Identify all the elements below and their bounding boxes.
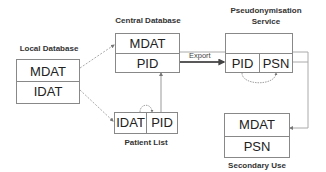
pseudo-service-box: PID PSN <box>225 33 293 73</box>
pseudo-service-title-1: Pseudonymisation <box>220 6 312 15</box>
local-db-idat: IDAT <box>17 81 79 99</box>
local-db-mdat: MDAT <box>17 64 79 79</box>
central-db-mdat: MDAT <box>116 36 179 51</box>
patient-list-title: Patient List <box>106 138 186 147</box>
patientlist-mapping-edge <box>140 105 152 112</box>
central-db-box: MDAT PID <box>115 33 180 73</box>
pid-psn-mapping-edge <box>242 73 276 83</box>
patient-list-pid: PID <box>146 113 177 133</box>
local-to-patientlist-edge <box>80 90 113 121</box>
secondary-use-box: MDAT PSN <box>224 113 290 158</box>
secondary-use-title: Secondary Use <box>217 161 297 170</box>
central-db-pid: PID <box>116 53 179 71</box>
local-db-box: MDAT IDAT <box>16 59 80 104</box>
patient-list-idat: IDAT <box>115 115 146 130</box>
secondary-use-psn: PSN <box>225 136 289 154</box>
pseudo-service-row: PID PSN <box>226 53 292 74</box>
local-to-central-edge <box>80 45 114 68</box>
pseudo-service-psn: PSN <box>259 54 292 73</box>
pseudo-service-pid: PID <box>226 56 259 71</box>
secondary-use-mdat: MDAT <box>225 117 289 132</box>
central-db-title: Central Database <box>108 16 188 25</box>
pseudo-service-title-2: Service <box>220 17 312 26</box>
export-label: Export <box>189 51 211 60</box>
patient-list-box: IDAT PID <box>114 112 178 134</box>
local-db-title: Local Database <box>14 44 84 53</box>
